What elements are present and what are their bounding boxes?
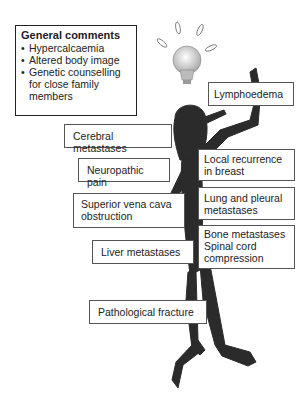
list-item: •Altered body image (21, 54, 131, 66)
label-local-recurrence: Local recurrence in breast (198, 149, 295, 181)
list-item-continuation: for close family (21, 78, 131, 90)
lightbulb-icon (156, 22, 217, 84)
general-comments-title: General comments (21, 29, 131, 42)
label-superior-vena-cava-obstruction: Superior vena cava obstruction (73, 193, 185, 228)
label-neuropathic-pain: Neuropathic pain (78, 158, 170, 182)
label-cerebral-metastases: Cerebral metastases (64, 124, 172, 148)
label-lymphoedema: Lymphoedema (208, 82, 294, 106)
general-comments-list: •Hypercalcaemia •Altered body image •Gen… (21, 42, 131, 102)
label-bone-metastases: Bone metastases Spinal cord compression (198, 225, 295, 269)
list-item: •Hypercalcaemia (21, 42, 131, 54)
label-pathological-fracture: Pathological fracture (89, 300, 207, 324)
list-item-continuation: members (21, 90, 131, 102)
label-lung-pleural-metastases: Lung and pleural metastases (198, 187, 295, 220)
label-liver-metastases: Liver metastases (92, 240, 194, 264)
general-comments-box: General comments •Hypercalcaemia •Altere… (15, 25, 137, 116)
list-item: •Genetic counselling (21, 66, 131, 78)
